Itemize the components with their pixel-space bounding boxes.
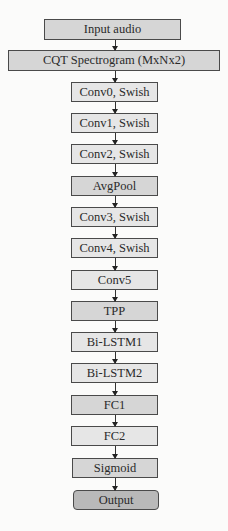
node-sigmoid: Sigmoid <box>72 458 158 478</box>
node-cqt: CQT Spectrogram (MxNx2) <box>8 50 220 71</box>
arrow-down-icon <box>115 71 116 82</box>
node-conv4: Conv4, Swish <box>71 238 158 258</box>
node-conv3: Conv3, Swish <box>71 207 158 227</box>
node-fc2: FC2 <box>71 426 158 446</box>
node-conv0: Conv0, Swish <box>71 82 158 102</box>
node-input: Input audio <box>44 19 181 40</box>
arrow-down-icon <box>115 446 116 458</box>
arrow-down-icon <box>115 321 116 332</box>
arrow-down-icon <box>115 40 116 50</box>
node-conv2: Conv2, Swish <box>71 144 158 164</box>
arrow-down-icon <box>115 196 116 207</box>
node-output: Output <box>73 490 159 510</box>
arrow-down-icon <box>115 164 116 176</box>
arrow-down-icon <box>115 290 116 301</box>
arrow-down-icon <box>115 227 116 238</box>
arrow-down-icon <box>115 383 116 395</box>
arrow-down-icon <box>115 352 116 363</box>
arrow-down-icon <box>115 133 116 144</box>
node-conv1: Conv1, Swish <box>71 113 158 133</box>
node-bilstm2: Bi-LSTM2 <box>71 363 158 383</box>
node-avgpool: AvgPool <box>71 176 158 196</box>
node-fc1: FC1 <box>71 395 158 415</box>
node-tpp: TPP <box>71 301 158 321</box>
arrow-down-icon <box>115 478 116 490</box>
arrow-down-icon <box>115 258 116 270</box>
node-conv5: Conv5 <box>71 270 158 290</box>
arrow-down-icon <box>115 102 116 113</box>
node-bilstm1: Bi-LSTM1 <box>71 332 158 352</box>
arrow-down-icon <box>115 415 116 426</box>
